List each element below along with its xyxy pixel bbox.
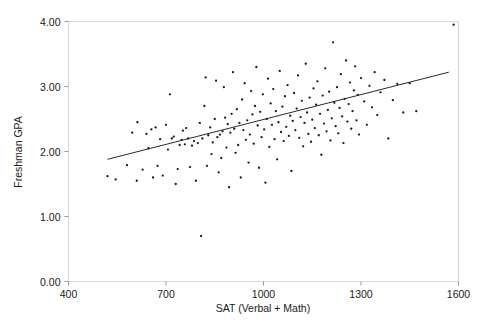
- data-point: [254, 105, 256, 107]
- y-tick-label: 0.00: [40, 276, 61, 288]
- data-point: [257, 124, 259, 126]
- data-point: [195, 180, 197, 182]
- y-tick-label: 4.00: [40, 16, 61, 28]
- data-point: [114, 178, 116, 180]
- data-point: [353, 89, 355, 91]
- data-point: [324, 67, 326, 69]
- data-point: [184, 143, 186, 145]
- data-point: [368, 85, 370, 87]
- data-point: [126, 164, 128, 166]
- data-point: [241, 98, 243, 100]
- data-point: [145, 133, 147, 135]
- data-point: [191, 145, 193, 147]
- data-point: [156, 165, 158, 167]
- data-point: [223, 86, 225, 88]
- data-point: [136, 121, 138, 123]
- data-point: [131, 132, 133, 134]
- data-point: [220, 157, 222, 159]
- data-point: [236, 108, 238, 110]
- data-point: [263, 128, 265, 130]
- data-point: [297, 74, 299, 76]
- data-point: [336, 86, 338, 88]
- data-point: [323, 122, 325, 124]
- data-point: [238, 122, 240, 124]
- data-point: [154, 126, 156, 128]
- data-point: [271, 124, 273, 126]
- data-point: [260, 136, 262, 138]
- data-point: [259, 111, 261, 113]
- data-point: [341, 115, 343, 117]
- data-point: [216, 136, 218, 138]
- data-point: [293, 92, 295, 94]
- data-point: [242, 129, 244, 131]
- data-point: [360, 77, 362, 79]
- data-point: [332, 41, 334, 43]
- chart-page: 400700100013001600 0.001.002.003.004.00 …: [0, 0, 486, 329]
- data-point: [285, 126, 287, 128]
- data-point: [306, 111, 308, 113]
- data-point: [212, 141, 214, 143]
- data-point: [270, 102, 272, 104]
- data-point: [246, 119, 248, 121]
- data-point: [363, 100, 365, 102]
- data-point: [288, 135, 290, 137]
- data-point: [165, 124, 167, 126]
- data-point: [301, 100, 303, 102]
- data-point: [209, 126, 211, 128]
- data-point: [303, 122, 305, 124]
- data-point: [292, 120, 294, 122]
- data-point: [316, 80, 318, 82]
- data-point: [251, 113, 253, 115]
- data-point: [350, 128, 352, 130]
- data-point: [286, 84, 288, 86]
- data-point: [237, 144, 239, 146]
- data-point: [338, 107, 340, 109]
- data-point: [337, 132, 339, 134]
- scatter-plot: 400700100013001600 0.001.002.003.004.00 …: [0, 0, 486, 329]
- data-point: [210, 153, 212, 155]
- data-point: [327, 109, 329, 111]
- plot-frame: [69, 22, 459, 282]
- x-tick-label: 1300: [349, 288, 373, 300]
- data-point: [452, 24, 454, 26]
- data-point: [283, 140, 285, 142]
- data-point: [314, 127, 316, 129]
- data-point: [354, 65, 356, 67]
- data-point: [224, 117, 226, 119]
- data-point: [294, 129, 296, 131]
- data-point: [319, 113, 321, 115]
- data-point: [152, 176, 154, 178]
- data-point: [207, 134, 209, 136]
- data-point: [296, 107, 298, 109]
- data-point: [141, 169, 143, 171]
- data-point: [325, 130, 327, 132]
- data-point: [185, 127, 187, 129]
- y-tick-label: 2.00: [40, 146, 61, 158]
- data-point: [218, 171, 220, 173]
- x-tick-label: 1000: [252, 288, 276, 300]
- x-axis-title: SAT (Verbal + Math): [216, 302, 310, 314]
- data-point: [189, 166, 191, 168]
- data-point: [346, 120, 348, 122]
- data-point: [299, 116, 301, 118]
- data-point: [197, 142, 199, 144]
- x-tick-label: 1600: [447, 288, 471, 300]
- data-point: [320, 154, 322, 156]
- data-point: [331, 117, 333, 119]
- data-point: [312, 87, 314, 89]
- data-point: [200, 235, 202, 237]
- data-point: [340, 73, 342, 75]
- data-point: [232, 71, 234, 73]
- data-point: [383, 79, 385, 81]
- data-point: [258, 167, 260, 169]
- data-point: [322, 94, 324, 96]
- y-tick-label: 3.00: [40, 81, 61, 93]
- data-point: [268, 146, 270, 148]
- data-point: [366, 124, 368, 126]
- data-point: [302, 145, 304, 147]
- x-axis-ticks: 400700100013001600: [60, 282, 471, 300]
- data-point: [177, 168, 179, 170]
- data-point: [328, 91, 330, 93]
- data-point: [273, 138, 275, 140]
- data-point: [264, 182, 266, 184]
